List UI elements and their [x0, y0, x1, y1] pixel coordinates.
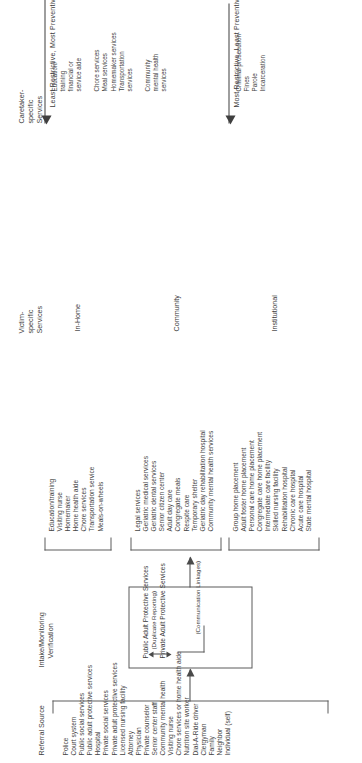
caretaker-service-item: Community — [143, 53, 151, 91]
caretaker-service-group: Communitymental healthservices — [143, 53, 167, 91]
intake-header-line1: Intake/Monitoring — [36, 612, 45, 667]
service-item: Chore services — [79, 466, 87, 531]
caretaker-service-item: Incarceration — [258, 34, 266, 91]
service-item: Geriatric day rehabilitation hospital — [198, 430, 206, 531]
service-item: Adult foster home placement — [239, 431, 247, 531]
service-item: Acute care hospital — [296, 431, 304, 531]
caretaker-service-group: Chore servicesMeal servicesHomemaker ser… — [92, 32, 132, 91]
service-item: Geriatric medical services — [141, 430, 149, 531]
service-group-label: Community — [171, 295, 180, 331]
service-item: Adult day care — [165, 430, 173, 531]
caretaker-service-item: financial or — [66, 57, 74, 91]
caretaker-service-item: Parole — [250, 34, 258, 91]
adult-protective-services-box: Public Adult Protective Services (Duplic… — [128, 586, 252, 668]
victim-header-line2: specific — [25, 305, 34, 333]
caretaker-service-item: Transportation — [117, 32, 125, 91]
service-item: Transportation service — [87, 466, 95, 531]
arrow-referral-to-intake — [189, 669, 190, 701]
service-group-bracket — [130, 537, 221, 550]
caretaker-service-item: services — [159, 53, 167, 91]
duplicate-reporting-double-arrow-icon — [152, 653, 167, 654]
caretaker-service-item: Criminal prosecution — [234, 34, 242, 91]
service-item: Temporary shelter — [190, 430, 198, 531]
caretaker-header-line2: specific — [25, 89, 34, 123]
service-item: Rehabilitation hospital — [280, 431, 288, 531]
caretaker-service-group: Education/trainingfinancial orservice ai… — [50, 57, 82, 91]
aps-box-content: Public Adult Protective Services (Duplic… — [141, 594, 166, 658]
service-group-bracket — [44, 537, 111, 550]
service-group-items: Education/trainingVisiting nurseHomemake… — [47, 466, 104, 531]
communication-linkages-label: (Communication Linkages) — [193, 560, 200, 634]
service-item: Meals-on-wheels — [96, 466, 104, 531]
caretaker-service-item: service aide — [74, 57, 82, 91]
intake-header-line2: Verification — [45, 612, 54, 658]
private-aps-label: Private Adult Protective Services — [158, 594, 166, 658]
service-item: Respite care — [182, 430, 190, 531]
service-item: Congregate meals — [173, 430, 181, 531]
service-item: Intermediate care facility — [263, 431, 271, 531]
caretaker-services-header: Caretaker- specific Services — [16, 89, 43, 123]
service-item: Legal services — [133, 430, 141, 531]
service-item: Chronic care hospital — [288, 431, 296, 531]
service-item: Personal care home placement — [247, 431, 255, 531]
diagram-stage: Referral Source PoliceCourt systemPublic… — [0, 0, 362, 763]
restrictiveness-arrow — [44, 0, 45, 123]
service-item: Visiting nurse — [55, 466, 63, 531]
caretaker-service-item: training — [58, 57, 66, 91]
service-item: Congregate care home placement — [255, 431, 263, 531]
caretaker-service-item: Education/ — [50, 57, 58, 91]
victim-header-line1: Victim- — [16, 305, 25, 333]
service-group-bracket — [228, 537, 319, 550]
service-item: Senior citizen center — [157, 430, 165, 531]
service-group-items: Group home placementAdult foster home pl… — [231, 431, 312, 531]
service-item: Community mental health services — [206, 430, 214, 531]
public-aps-label: Public Adult Protective Services — [141, 594, 149, 658]
victim-header-line3: Services — [34, 305, 43, 333]
service-item: Geriatric dental services — [149, 430, 157, 531]
caretaker-service-item: Fines — [242, 34, 250, 91]
service-item: Home health aide — [71, 466, 79, 531]
victim-services-header: Victim- specific Services — [16, 305, 44, 333]
caretaker-service-item: Meal services — [100, 32, 108, 91]
caretaker-service-group: Criminal prosecutionFinesParoleIncarcera… — [234, 34, 266, 91]
arrow-intake-to-services — [189, 557, 190, 587]
service-item: State mental hospital — [304, 431, 312, 531]
service-group-items: Legal servicesGeriatric medical services… — [133, 430, 214, 531]
service-item: Group home placement — [231, 431, 239, 531]
caretaker-service-item: mental health — [151, 53, 159, 91]
service-item: Homemaker — [63, 466, 71, 531]
caretaker-service-item: Chore services — [92, 32, 100, 91]
caretaker-service-item: services — [125, 32, 133, 91]
caretaker-header-line1: Caretaker- — [16, 89, 25, 123]
caretaker-service-item: Homemaker services — [109, 32, 117, 91]
intake-header: Intake/Monitoring Verification — [36, 612, 54, 667]
service-group-label: In-Home — [72, 303, 81, 331]
service-item: Education/training — [47, 466, 55, 531]
referral-source-bracket — [52, 700, 328, 713]
service-group-label: Institutional — [269, 295, 278, 331]
restrictiveness-arrow — [228, 3, 229, 123]
diagram-canvas: Referral Source PoliceCourt systemPublic… — [0, 0, 362, 763]
duplicate-reporting-label: (Duplicate Reporting) — [149, 594, 157, 649]
service-item: Skilled nursing facility — [271, 431, 279, 531]
